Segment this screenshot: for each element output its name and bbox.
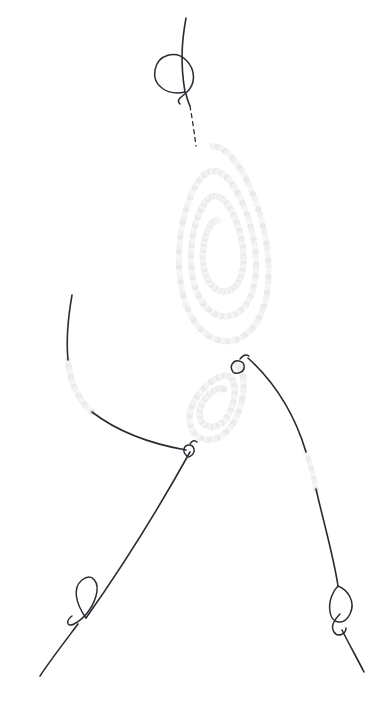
bead (221, 386, 227, 392)
bead (260, 223, 266, 229)
bead (261, 229, 267, 235)
sketch-svg (0, 0, 386, 706)
bead (262, 234, 268, 240)
bead (264, 246, 270, 252)
bead (215, 218, 221, 224)
bead (263, 240, 269, 246)
sketch-canvas: Knotted strand sketch Minimal line drawi… (0, 0, 386, 706)
bead (265, 252, 271, 258)
background-rect (0, 0, 386, 706)
bead (258, 217, 264, 223)
bead (255, 206, 261, 212)
bead (265, 257, 271, 263)
bead (265, 263, 271, 269)
bead (257, 212, 263, 218)
